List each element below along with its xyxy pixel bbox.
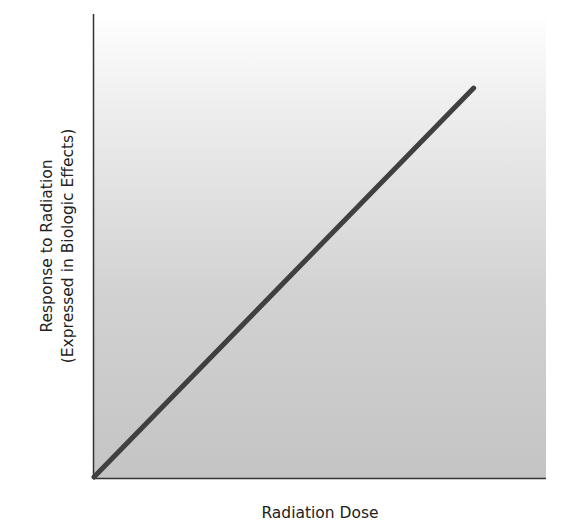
y-axis-label-line-2: (Expressed in Biologic Effects) <box>58 129 79 363</box>
dose-response-line <box>94 88 474 477</box>
x-axis-label: Radiation Dose <box>261 504 378 522</box>
chart-svg <box>0 0 570 526</box>
y-axis-label: Response to Radiation (Expressed in Biol… <box>37 129 79 363</box>
y-axis-label-line-1: Response to Radiation <box>37 129 58 363</box>
